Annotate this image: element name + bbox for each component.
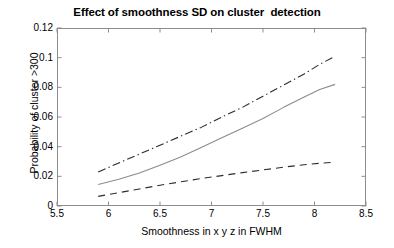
series-line-dash-dot	[98, 56, 335, 172]
x-tick-label: 5.5	[37, 209, 77, 219]
axis-ticks	[57, 28, 366, 206]
x-tick-label: 8.5	[346, 209, 386, 219]
chart-title: Effect of smoothness SD on cluster detec…	[0, 6, 394, 18]
series-line-dashed	[98, 162, 335, 196]
data-series-group	[98, 56, 335, 196]
figure-canvas: Effect of smoothness SD on cluster detec…	[0, 0, 394, 248]
x-tick-label: 8	[295, 209, 335, 219]
plot-series-layer	[57, 28, 366, 206]
x-tick-label: 6.5	[140, 209, 180, 219]
y-axis-title: Probability of cluster >300	[28, 23, 40, 203]
series-line-solid	[98, 84, 335, 184]
x-tick-label: 6	[89, 209, 129, 219]
x-axis-title: Smoothness in x y z in FWHM	[57, 225, 366, 237]
x-tick-label: 7.5	[243, 209, 283, 219]
x-tick-label: 7	[192, 209, 232, 219]
